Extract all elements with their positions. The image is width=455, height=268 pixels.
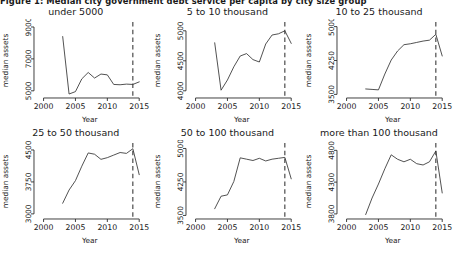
x-axis-label: Year [81, 236, 99, 245]
x-axis-label: Year [81, 115, 99, 124]
x-tick-label: 2005 [66, 102, 86, 111]
x-tick-label: 2010 [97, 223, 117, 232]
plot-area: 5000700090002000200520102015Yearmedian a… [0, 19, 152, 124]
x-tick-label: 2005 [217, 223, 237, 232]
x-tick-label: 2010 [401, 102, 421, 111]
x-tick-label: 2000 [185, 223, 205, 232]
x-tick-label: 2000 [337, 102, 357, 111]
y-axis-label: median assets [305, 155, 314, 209]
y-tick-label: 3000 [24, 204, 33, 223]
panel-plot: 3500425050002000200520102015Yearmedian a… [303, 19, 455, 124]
y-axis-label: median assets [1, 34, 10, 88]
x-axis-label: Year [233, 236, 251, 245]
plot-area: 3500425050002000200520102015Yearmedian a… [152, 140, 304, 245]
x-tick-label: 2000 [337, 223, 357, 232]
series-line [366, 34, 443, 90]
panel-25-to-50-thousand: 25 to 50 thousand 3000375045002000200520… [0, 127, 152, 258]
x-axis-label: Year [384, 115, 402, 124]
panel-10-to-25-thousand: 10 to 25 thousand 3500425050002000200520… [303, 6, 455, 127]
y-tick-label: 3500 [327, 85, 336, 104]
y-axis-label: median assets [305, 34, 314, 88]
panel-5-to-10-thousand: 5 to 10 thousand 40004500500020002005201… [152, 6, 304, 127]
x-tick-label: 2005 [369, 102, 389, 111]
series-line [214, 157, 291, 208]
y-tick-label: 5000 [327, 19, 336, 36]
y-tick-label: 3750 [24, 172, 33, 191]
panel-title: 5 to 10 thousand [152, 6, 304, 17]
y-tick-label: 4300 [327, 172, 336, 191]
x-tick-label: 2010 [249, 102, 269, 111]
y-tick-label: 4250 [175, 172, 184, 191]
y-tick-label: 4500 [24, 140, 33, 159]
panel-title: under 5000 [0, 6, 152, 17]
x-tick-label: 2015 [281, 223, 301, 232]
y-tick-label: 4000 [175, 81, 184, 100]
x-tick-label: 2000 [185, 102, 205, 111]
x-axis-label: Year [233, 115, 251, 124]
y-tick-label: 9000 [24, 19, 33, 36]
x-tick-label: 2010 [97, 102, 117, 111]
panel-title: 50 to 100 thousand [152, 127, 304, 138]
y-axis-label: median assets [153, 34, 162, 88]
y-axis-label: median assets [153, 155, 162, 209]
panel-under-5000: under 5000 5000700090002000200520102015Y… [0, 6, 152, 127]
x-tick-label: 2015 [432, 102, 452, 111]
y-tick-label: 5000 [24, 81, 33, 100]
plot-area: 4000450050002000200520102015Yearmedian a… [152, 19, 304, 124]
y-tick-label: 3500 [175, 206, 184, 225]
x-tick-label: 2015 [129, 102, 149, 111]
panel-plot: 5000700090002000200520102015Yearmedian a… [0, 19, 152, 124]
x-tick-label: 2000 [34, 102, 54, 111]
y-tick-label: 7000 [24, 49, 33, 68]
panel-grid: under 5000 5000700090002000200520102015Y… [0, 6, 455, 268]
series-line [63, 37, 140, 94]
plot-area: 3000375045002000200520102015Yearmedian a… [0, 140, 152, 245]
x-tick-label: 2005 [369, 223, 389, 232]
panel-plot: 3800430048002000200520102015Yearmedian a… [303, 140, 455, 245]
plot-area: 3800430048002000200520102015Yearmedian a… [303, 140, 455, 245]
x-tick-label: 2010 [249, 223, 269, 232]
series-line [214, 31, 291, 90]
x-axis-label: Year [384, 236, 402, 245]
panel-title: 25 to 50 thousand [0, 127, 152, 138]
x-tick-label: 2010 [401, 223, 421, 232]
panel-more-than-100-thousand: more than 100 thousand 38004300480020002… [303, 127, 455, 258]
x-tick-label: 2015 [129, 223, 149, 232]
y-axis-label: median assets [1, 155, 10, 209]
panel-title: more than 100 thousand [303, 127, 455, 138]
y-tick-label: 4500 [175, 51, 184, 70]
panel-50-to-100-thousand: 50 to 100 thousand 350042505000200020052… [152, 127, 304, 258]
y-tick-label: 4250 [327, 51, 336, 70]
figure-root: Figure 1: Median city government debt se… [0, 0, 455, 268]
panel-plot: 4000450050002000200520102015Yearmedian a… [152, 19, 304, 124]
panel-title: 10 to 25 thousand [303, 6, 455, 17]
x-tick-label: 2005 [66, 223, 86, 232]
x-tick-label: 2015 [432, 223, 452, 232]
panel-plot: 3000375045002000200520102015Yearmedian a… [0, 140, 152, 245]
x-tick-label: 2000 [34, 223, 54, 232]
y-tick-label: 5000 [175, 140, 184, 158]
series-line [63, 149, 140, 204]
x-tick-label: 2015 [281, 102, 301, 111]
y-tick-label: 3800 [327, 204, 336, 223]
y-tick-label: 4800 [327, 141, 336, 160]
panel-plot: 3500425050002000200520102015Yearmedian a… [152, 140, 304, 245]
x-tick-label: 2005 [217, 102, 237, 111]
series-line [366, 151, 443, 215]
y-tick-label: 5000 [175, 21, 184, 40]
plot-area: 3500425050002000200520102015Yearmedian a… [303, 19, 455, 124]
